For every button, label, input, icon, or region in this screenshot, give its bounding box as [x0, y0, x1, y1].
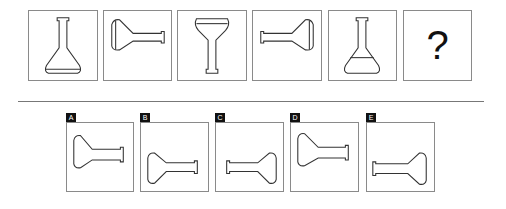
divider — [18, 101, 484, 102]
option-label-b: B — [140, 113, 150, 122]
sequence-item-3 — [177, 10, 247, 81]
option-label-e: E — [366, 113, 376, 122]
sequence-item-5 — [328, 10, 397, 81]
flask-pointing-left-icon — [367, 123, 434, 191]
option-label-a: A — [66, 113, 76, 122]
option-c[interactable] — [215, 122, 284, 192]
option-b[interactable] — [140, 122, 209, 192]
flask-upside-down-icon — [178, 11, 246, 80]
question-mark: ? — [404, 11, 471, 80]
flask-pointing-right-icon — [104, 11, 171, 80]
sequence-item-2 — [103, 10, 172, 81]
option-e[interactable] — [366, 122, 435, 192]
flask-pointing-right-icon — [67, 123, 133, 191]
sequence-item-4 — [252, 10, 322, 81]
option-label-d: D — [290, 113, 300, 122]
flask-pointing-right-icon — [141, 123, 208, 191]
option-a[interactable] — [66, 122, 134, 192]
option-d[interactable] — [290, 122, 359, 192]
flask-pointing-left-icon — [216, 123, 283, 191]
flask-pointing-left-icon — [253, 11, 321, 80]
flask-pointing-right-icon — [291, 123, 358, 191]
option-label-c: C — [215, 113, 225, 122]
sequence-item-1 — [28, 10, 98, 81]
flask-upright-icon — [29, 11, 97, 80]
sequence-item-missing: ? — [403, 10, 472, 81]
flask-upright-icon — [329, 11, 396, 80]
